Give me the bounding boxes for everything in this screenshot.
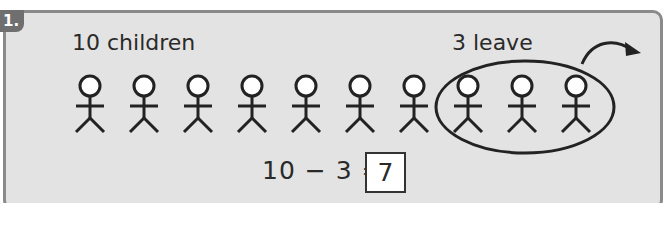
stick-figure-icon [238, 76, 266, 132]
stick-figure-icon [454, 76, 482, 132]
stick-figure-icon [346, 76, 374, 132]
stick-figure-icon [184, 76, 212, 132]
stick-figure-icon [130, 76, 158, 132]
stick-figure-icon [562, 76, 590, 132]
arrowhead-icon [625, 42, 641, 56]
answer-box[interactable]: 7 [365, 152, 406, 193]
stick-figure-icon [400, 76, 428, 132]
stick-figure-icon [76, 76, 104, 132]
stick-figure-icon [292, 76, 320, 132]
leave-arrow-icon [582, 43, 632, 64]
stick-figure-icon [508, 76, 536, 132]
